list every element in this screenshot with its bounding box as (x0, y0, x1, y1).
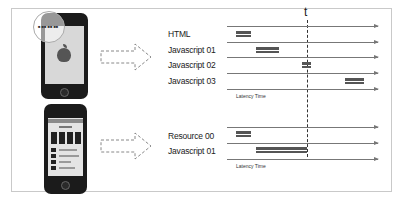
app-header-bar (48, 119, 83, 123)
time-marker-label: t (304, 5, 307, 19)
list-item (59, 149, 77, 151)
latency-bar-javascript-01 (256, 47, 279, 53)
timeline-axis (227, 143, 378, 144)
apple-logo-icon (57, 48, 71, 62)
row-label-resource-00: Resource 00 (168, 131, 214, 141)
timeline-axis (227, 89, 378, 90)
app-tile (75, 132, 81, 144)
app-tile (67, 132, 73, 144)
app-tile (59, 132, 65, 144)
timeline-axis (227, 159, 378, 160)
dashed-arrow-icon (99, 42, 153, 72)
magnifier-text: ■ ■■ ■■ ■■ (38, 24, 58, 29)
list-icon (51, 148, 56, 152)
app-title-text (59, 126, 72, 128)
row-label-javascript-01: Javascript 01 (168, 45, 215, 55)
list-item (59, 167, 75, 169)
dashed-arrow-icon (99, 131, 153, 161)
app-tile (51, 132, 57, 144)
timeline-axis (227, 57, 378, 58)
axis-label-latency-time: Latency Time (236, 93, 266, 99)
latency-bar-javascript-02 (302, 62, 311, 68)
row-label-javascript-02: Javascript 02 (168, 60, 215, 70)
row-label-html: HTML (168, 29, 190, 39)
magnifier-lens: ■ ■■ ■■ ■■ (33, 11, 65, 43)
latency-bar-html (236, 31, 251, 37)
phone-bottom (44, 104, 87, 194)
latency-bar-javascript-01-bottom (256, 147, 307, 153)
timeline-axis (227, 127, 378, 128)
latency-bar-javascript-03 (345, 78, 364, 84)
timeline-axis (227, 73, 378, 74)
list-item (59, 155, 79, 157)
home-button-icon (61, 181, 70, 190)
row-label-javascript-03: Javascript 03 (168, 76, 215, 86)
timeline-axis (227, 26, 378, 27)
row-label-javascript-01-bottom: Javascript 01 (168, 146, 215, 156)
list-icon (51, 166, 56, 170)
list-icon (51, 160, 56, 164)
latency-bar-resource-00 (236, 131, 251, 137)
list-item (59, 161, 71, 163)
home-button-icon (60, 88, 69, 97)
timeline-axis (227, 42, 378, 43)
phone-bottom-screen (48, 118, 83, 176)
axis-label-latency-time-bottom: Latency Time (236, 163, 266, 169)
list-icon (51, 154, 56, 158)
